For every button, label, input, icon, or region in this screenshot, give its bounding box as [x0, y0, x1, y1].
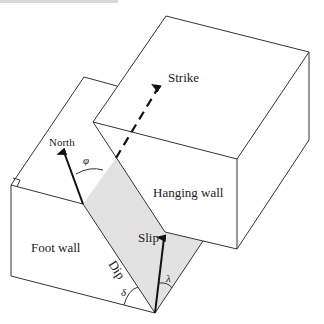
north-arrow: [64, 152, 83, 204]
hanging-wall-top-right-edge: [237, 52, 309, 159]
phi-label: φ: [83, 154, 89, 166]
foot-wall-top-edge: [11, 185, 83, 204]
hanging-wall-top-front-edge: [93, 122, 237, 159]
foot-wall-label: Foot wall: [31, 240, 81, 255]
lambda-label: λ: [165, 272, 171, 284]
north-label: North: [49, 136, 75, 148]
hanging-wall-label: Hanging wall: [153, 185, 224, 200]
strike-label: Strike: [168, 70, 199, 85]
slip-label: Slip: [138, 230, 159, 245]
strike-arrow: [116, 88, 158, 158]
fault-diagram: Strike North φ Hanging wall Foot wall Sl…: [0, 0, 324, 324]
phi-arc: [76, 169, 103, 174]
delta-label: δ: [121, 286, 127, 298]
